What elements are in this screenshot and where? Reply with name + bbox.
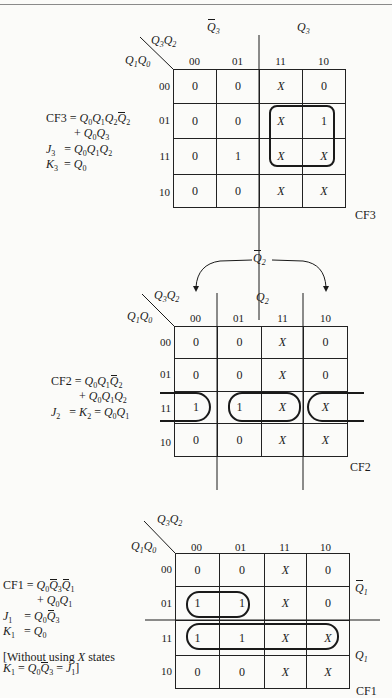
cell: 0 (307, 554, 350, 587)
corner-cols-var: Q3Q2 (154, 288, 179, 304)
row-header: 00 (151, 336, 171, 348)
cell: X (265, 587, 307, 621)
cell: 0 (217, 70, 260, 104)
cell: 0 (304, 359, 348, 392)
col-header: 00 (173, 55, 216, 67)
cell: 0 (174, 139, 217, 175)
row-header: 00 (150, 80, 170, 92)
cell: 1 (176, 621, 220, 656)
cell: 0 (218, 359, 262, 392)
cell: 0 (174, 104, 217, 139)
cell: X (262, 424, 304, 457)
cell: 1 (176, 587, 220, 621)
cell: 0 (175, 327, 218, 359)
arrow-left (193, 286, 199, 292)
cell: 0 (176, 554, 220, 587)
cell: X (304, 424, 348, 457)
cell: X (262, 359, 304, 392)
row-header: 10 (151, 436, 171, 448)
col-header: 10 (304, 541, 347, 553)
equations-cf3: CF3 = Q0Q1Q2Q2 + Q0Q3 J3 = Q0Q1Q2 K3 = Q… (46, 113, 130, 175)
kmap-grid: 0 0 X 0 1 1 X 0 1 1 X X 0 0 X X (175, 553, 350, 689)
map-name: CF2 (350, 460, 371, 475)
cell: X (307, 621, 350, 656)
col-header: 11 (261, 312, 304, 324)
cell: X (260, 104, 303, 139)
row-header: 01 (150, 114, 170, 126)
col-header: 11 (259, 55, 302, 67)
cell: 0 (217, 104, 260, 139)
cell: 0 (175, 424, 218, 457)
equations-cf1: CF1 = Q0Q3Q1 + Q0Q1 J1 = Q0Q3 K1 = Q0 [W… (3, 580, 115, 678)
region-label-q2: Q2 (256, 290, 269, 306)
col-header: 10 (302, 55, 345, 67)
region-label-q1-bar: Q1 (355, 581, 368, 597)
arrow-right (323, 286, 329, 292)
cell: 0 (218, 327, 262, 359)
row-header: 00 (152, 563, 172, 575)
map-name: CF3 (355, 208, 376, 223)
cell: X (262, 327, 304, 359)
col-header: 00 (174, 312, 217, 324)
kmap-grid: 0 0 X 0 0 0 X 0 1 1 X X 0 0 X X (174, 326, 348, 457)
cell: X (260, 139, 303, 175)
cell: 0 (218, 424, 262, 457)
row-header: 11 (152, 632, 172, 644)
cell: X (304, 392, 348, 424)
cell: 0 (220, 554, 265, 587)
kmap-grid: 0 0 X 0 0 0 X 1 0 1 X X 0 0 X X (173, 69, 346, 208)
cell: X (260, 175, 303, 208)
region-label-q2-bar: Q2 (253, 251, 266, 267)
corner-rows-var: Q1Q0 (131, 539, 156, 555)
row-header: 01 (151, 368, 171, 380)
cell: X (265, 621, 307, 656)
cell: 0 (307, 587, 350, 621)
cell: 1 (220, 621, 265, 656)
cell: 0 (303, 70, 346, 104)
cell: X (260, 70, 303, 104)
equations-cf2: CF2 = Q0Q1Q2 + Q0Q1Q2 J2 = K2 = Q0Q1 (51, 376, 129, 422)
cell: X (262, 392, 304, 424)
cell: 0 (176, 656, 220, 689)
row-header: 01 (152, 597, 172, 609)
row-header: 10 (152, 665, 172, 677)
cell: 0 (304, 327, 348, 359)
col-header: 01 (217, 312, 260, 324)
cell: 0 (174, 70, 217, 104)
cell: 0 (220, 656, 265, 689)
col-header: 11 (263, 541, 306, 553)
cell: X (303, 139, 346, 175)
region-label-q1: Q1 (355, 648, 368, 664)
cell: 0 (174, 175, 217, 208)
map-name: CF1 (356, 684, 377, 698)
row-header: 10 (150, 186, 170, 198)
corner-rows-var: Q1Q0 (127, 309, 152, 325)
cell: X (303, 175, 346, 208)
col-header: 01 (219, 541, 262, 553)
page-top-rule (0, 4, 392, 5)
corner-cols-var: Q3Q2 (151, 33, 176, 49)
row-header: 11 (150, 150, 170, 162)
cell: X (265, 656, 307, 689)
region-label-q3-bar: Q3 (207, 20, 220, 36)
corner-cols-var: Q3Q2 (157, 512, 182, 528)
row-header: 11 (151, 402, 171, 414)
cell: X (265, 554, 307, 587)
cell: 1 (220, 587, 265, 621)
col-header: 00 (175, 541, 218, 553)
col-header: 10 (304, 312, 347, 324)
cell: 0 (175, 359, 218, 392)
cell: 1 (217, 139, 260, 175)
cell: 1 (218, 392, 262, 424)
col-header: 01 (216, 55, 259, 67)
corner-rows-var: Q1Q0 (125, 53, 150, 69)
cell: 0 (217, 175, 260, 208)
cell: 1 (303, 104, 346, 139)
region-label-q3: Q3 (297, 20, 310, 36)
cell: 1 (175, 392, 218, 424)
cell: X (307, 656, 350, 689)
